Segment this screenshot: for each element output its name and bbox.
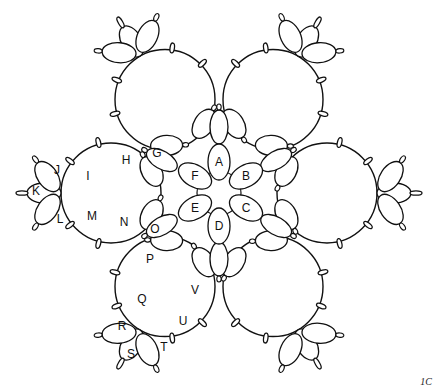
ring-label-r: R	[118, 319, 127, 333]
tatting-pattern-drawing: ABCDEFGHIJKLMNOPQRSTUV	[0, 0, 438, 389]
ring-label-f: F	[191, 169, 198, 183]
picot	[197, 58, 207, 68]
ring-label-o: O	[150, 222, 159, 236]
picot	[65, 156, 76, 166]
ring-label-e: E	[191, 201, 199, 215]
tatting-diagram: ABCDEFGHIJKLMNOPQRSTUV 1C	[0, 0, 438, 389]
ring-label-t: T	[160, 340, 168, 354]
ring-label-g: G	[152, 146, 161, 160]
picot	[65, 220, 76, 230]
ring-label-s: S	[127, 347, 135, 361]
ring-label-h: H	[122, 153, 131, 167]
picot	[116, 357, 126, 370]
picot	[410, 191, 422, 195]
picot	[116, 16, 126, 29]
picot	[363, 156, 374, 166]
ring-label-q: Q	[137, 292, 146, 306]
picot	[313, 16, 323, 29]
ring-label-p: P	[146, 252, 154, 266]
picot	[16, 191, 28, 195]
ring-label-c: C	[242, 201, 251, 215]
picot	[197, 318, 207, 328]
ring-label-m: M	[87, 209, 97, 223]
ring-label-k: K	[32, 184, 40, 198]
picot	[313, 357, 323, 370]
figure-label: 1C	[420, 376, 432, 387]
ring-label-j: J	[54, 163, 60, 177]
ring-label-n: N	[120, 215, 129, 229]
ring-label-v: V	[191, 283, 199, 297]
ring-label-l: L	[57, 212, 64, 226]
ring-label-u: U	[179, 314, 188, 328]
picot	[230, 318, 240, 328]
ring-label-i: I	[86, 169, 89, 183]
ring-label-a: A	[215, 155, 223, 169]
picot	[363, 220, 374, 230]
ring-label-b: B	[242, 169, 250, 183]
ring-label-d: D	[215, 219, 224, 233]
picot	[230, 58, 240, 68]
